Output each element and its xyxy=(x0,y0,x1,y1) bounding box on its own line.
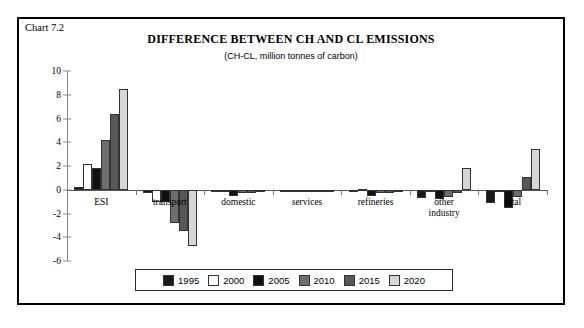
x-axis-category-line: total xyxy=(504,197,521,208)
chart-subtitle: (CH-CL, million tonnes of carbon) xyxy=(19,51,563,61)
y-axis-tick-mark xyxy=(63,213,71,214)
bar xyxy=(385,190,394,194)
legend-item[interactable]: 1995 xyxy=(163,275,199,286)
bar xyxy=(211,190,220,192)
legend-item[interactable]: 2010 xyxy=(299,275,335,286)
x-axis-category-line: other xyxy=(429,197,460,208)
bar xyxy=(247,190,256,194)
plot-area: 1086420-2-4-6 ESItransportdomesticservic… xyxy=(67,71,547,261)
y-axis-tick-mark xyxy=(63,94,71,95)
bar xyxy=(426,190,435,192)
x-axis-tick-mark xyxy=(273,190,274,195)
x-axis-category-line: transport xyxy=(153,197,187,208)
bar xyxy=(256,190,265,192)
x-axis-tick-mark xyxy=(136,190,137,195)
bar xyxy=(143,190,152,194)
x-axis-tick-mark xyxy=(478,190,479,195)
chart-legend: 199520002005201020152020 xyxy=(135,269,453,291)
x-axis-tick-mark xyxy=(341,190,342,195)
legend-label: 2005 xyxy=(268,275,289,286)
y-axis-tick-mark xyxy=(63,189,71,190)
bar xyxy=(495,190,504,192)
x-axis-category-label: total xyxy=(504,197,521,208)
x-axis-category-line: domestic xyxy=(221,197,255,208)
legend-item[interactable]: 2005 xyxy=(253,275,289,286)
bar xyxy=(119,89,128,190)
legend-swatch xyxy=(208,275,219,286)
bar xyxy=(101,140,110,190)
y-axis-tick-mark xyxy=(63,166,71,167)
legend-swatch xyxy=(163,275,174,286)
bar xyxy=(238,190,247,194)
bar xyxy=(325,190,334,192)
bar xyxy=(417,190,426,198)
x-axis-category-label: services xyxy=(292,197,323,208)
x-axis-tick-mark xyxy=(547,190,548,195)
chart-frame: Chart 7.2 DIFFERENCE BETWEEN CH AND CL E… xyxy=(17,17,565,305)
bar xyxy=(289,190,298,192)
y-axis-tick-mark xyxy=(63,261,71,262)
y-axis-tick-mark xyxy=(63,237,71,238)
bar xyxy=(110,114,119,190)
bar xyxy=(229,190,238,196)
chart-title: DIFFERENCE BETWEEN CH AND CL EMISSIONS xyxy=(19,32,563,47)
bar xyxy=(349,190,358,192)
bar xyxy=(307,190,316,192)
legend-label: 2010 xyxy=(314,275,335,286)
x-axis-category-label: otherindustry xyxy=(429,197,460,219)
x-axis-category-label: refineries xyxy=(358,197,394,208)
bar xyxy=(83,164,92,190)
bar xyxy=(453,190,462,194)
bar xyxy=(280,190,289,192)
legend-label: 2015 xyxy=(359,275,380,286)
bar xyxy=(358,189,367,191)
x-axis-category-label: ESI xyxy=(94,197,108,208)
bar xyxy=(462,168,471,189)
bar xyxy=(531,149,540,189)
bar xyxy=(522,177,531,190)
legend-label: 2020 xyxy=(404,275,425,286)
x-axis-tick-mark xyxy=(410,190,411,195)
legend-item[interactable]: 2020 xyxy=(389,275,425,286)
x-axis-tick-mark xyxy=(204,190,205,195)
legend-item[interactable]: 2015 xyxy=(344,275,380,286)
x-axis-category-line: refineries xyxy=(358,197,394,208)
x-axis-category-label: domestic xyxy=(221,197,255,208)
legend-swatch xyxy=(389,275,400,286)
bar xyxy=(376,190,385,194)
x-axis-category-line: services xyxy=(292,197,323,208)
y-axis-tick-mark xyxy=(63,118,71,119)
bar xyxy=(188,190,197,246)
x-axis-category-label: transport xyxy=(153,197,187,208)
bar xyxy=(220,190,229,192)
legend-swatch xyxy=(299,275,310,286)
legend-label: 1995 xyxy=(178,275,199,286)
bar xyxy=(298,190,307,192)
x-axis-category-line: industry xyxy=(429,208,460,219)
legend-swatch xyxy=(344,275,355,286)
bar xyxy=(74,187,83,189)
y-axis-tick-mark xyxy=(63,142,71,143)
x-axis-category-line: ESI xyxy=(94,197,108,208)
legend-label: 2000 xyxy=(223,275,244,286)
bar xyxy=(316,190,325,192)
bar xyxy=(367,190,376,196)
bar xyxy=(92,168,101,189)
bar xyxy=(394,190,403,192)
y-axis-tick-mark xyxy=(63,71,71,72)
legend-swatch xyxy=(253,275,264,286)
legend-item[interactable]: 2000 xyxy=(208,275,244,286)
bar xyxy=(486,190,495,203)
